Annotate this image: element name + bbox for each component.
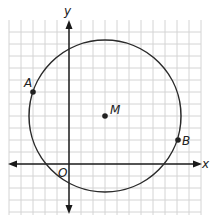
point-a-label: A [23,76,32,90]
point-a [30,89,36,95]
point-m-label: M [110,103,121,117]
point-m [102,113,108,119]
point-b [175,137,181,143]
point-b-label: B [182,134,190,148]
arrow-down-icon [66,205,73,214]
origin-label: O [58,166,67,180]
arrow-up-icon [66,20,73,29]
coordinate-plane-diagram: y x O A B M [0,0,215,222]
y-axis-label: y [63,4,72,18]
x-axis-label: x [201,157,210,171]
